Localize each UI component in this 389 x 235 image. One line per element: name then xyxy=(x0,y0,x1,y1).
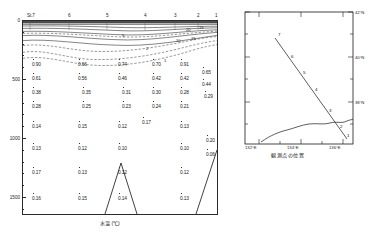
observation-point xyxy=(79,59,80,60)
observation-point xyxy=(181,193,182,194)
observation-point xyxy=(123,87,124,88)
observation-point xyxy=(143,117,144,118)
observation-value: 0.16 xyxy=(32,196,41,201)
observation-point xyxy=(119,143,120,144)
observation-point xyxy=(119,193,120,194)
observation-point xyxy=(119,121,120,122)
observation-point xyxy=(181,87,182,88)
observation-value: 0.15 xyxy=(78,124,87,129)
observation-value: 0.12 xyxy=(180,170,189,175)
isotherm-label: 2 xyxy=(146,46,148,51)
observation-point xyxy=(33,121,34,122)
observation-value: 0.17 xyxy=(32,170,41,175)
observation-value: 0.29 xyxy=(204,94,213,99)
observation-value: 0.25 xyxy=(82,104,91,109)
observation-value: 0.28 xyxy=(180,90,189,95)
observation-point xyxy=(181,59,182,60)
observation-point xyxy=(123,101,124,102)
observation-value: 0.10 xyxy=(180,146,189,151)
observation-point xyxy=(33,73,34,74)
observation-point xyxy=(83,101,84,102)
observation-point xyxy=(33,101,34,102)
isotherm-label: 10 xyxy=(176,38,181,43)
observation-value: 0.66 xyxy=(78,62,87,67)
map-station-number: 7 xyxy=(278,32,280,37)
observation-point xyxy=(207,149,208,150)
isotherm-label: 15 xyxy=(191,36,196,41)
x-axis-label: 水温 (℃) xyxy=(100,219,120,226)
observation-point xyxy=(33,59,34,60)
observation-value: 0.13 xyxy=(32,146,41,151)
observation-value: 0.12 xyxy=(78,146,87,151)
observation-value: 0.13 xyxy=(78,170,87,175)
observation-point xyxy=(203,79,204,80)
observation-point xyxy=(33,193,34,194)
map-station-number: 4 xyxy=(315,87,317,92)
figure-root: St.7654321 050010001500 xyxy=(0,0,389,235)
observation-value: 0.42 xyxy=(180,76,189,81)
observation-point xyxy=(33,87,34,88)
observation-point xyxy=(181,73,182,74)
observation-point xyxy=(181,101,182,102)
observation-point xyxy=(153,73,154,74)
observation-point xyxy=(79,121,80,122)
isotherm-label: 15 xyxy=(199,25,204,30)
observation-value: 0.14 xyxy=(118,196,127,201)
observation-point xyxy=(119,59,120,60)
map-station-number: 1 xyxy=(347,133,349,138)
map-station-number: 3 xyxy=(329,108,331,113)
longitude-label: 136°E xyxy=(329,145,340,150)
latitude-label: 40°N xyxy=(355,55,364,60)
observation-point xyxy=(119,73,120,74)
observation-value: 0.31 xyxy=(122,90,131,95)
isotherm-label: 5 xyxy=(122,33,124,38)
map-caption: 観測点の位置 xyxy=(271,151,305,158)
observation-point xyxy=(203,67,204,68)
observation-point xyxy=(153,101,154,102)
observation-value: 0.30 xyxy=(152,90,161,95)
observation-value: 0.91 xyxy=(180,62,189,67)
longitude-label: 132°E xyxy=(245,145,256,150)
observation-point xyxy=(79,193,80,194)
observation-value: 0.17 xyxy=(142,120,151,125)
observation-value: 0.74 xyxy=(118,62,127,67)
observation-value: 0.70 xyxy=(152,62,161,67)
observation-value: 0.13 xyxy=(180,124,189,129)
observation-value: 0.61 xyxy=(32,76,41,81)
observation-point xyxy=(79,167,80,168)
isotherm-label: 1 xyxy=(164,58,166,63)
latitude-label: 42°N xyxy=(355,10,364,15)
observation-value: 0.35 xyxy=(82,90,91,95)
observation-value: 0.12 xyxy=(118,170,127,175)
observation-value: 0.24 xyxy=(152,104,161,109)
observation-point xyxy=(33,143,34,144)
map-station-number: 2 xyxy=(340,124,342,129)
observation-value: 0.42 xyxy=(152,76,161,81)
latitude-label: 38°N xyxy=(355,100,364,105)
observation-point xyxy=(181,143,182,144)
observation-value: 0.90 xyxy=(32,62,41,67)
observation-value: 0.12 xyxy=(118,124,127,129)
observation-value: 0.20 xyxy=(206,138,215,143)
observation-point xyxy=(207,135,208,136)
observation-point xyxy=(181,121,182,122)
observation-value: 0.28 xyxy=(32,104,41,109)
observation-value: 0.65 xyxy=(202,70,211,75)
observation-value: 0.56 xyxy=(78,76,87,81)
observation-value: 0.15 xyxy=(78,196,87,201)
observation-point xyxy=(181,167,182,168)
map-frame-and-track xyxy=(231,8,386,158)
observation-point xyxy=(79,143,80,144)
observation-point xyxy=(153,87,154,88)
station-location-map: 42°N40°N38°N 132°E134°E136°E 7654321 観測点… xyxy=(231,8,386,173)
observation-value: 0.46 xyxy=(118,76,127,81)
observation-point xyxy=(119,167,120,168)
observation-value: 0.13 xyxy=(180,196,189,201)
observation-value: 0.06 xyxy=(206,152,215,157)
observation-point xyxy=(205,91,206,92)
isotherm-label: 20 xyxy=(186,27,191,32)
observation-point xyxy=(33,167,34,168)
observation-value: 0.21 xyxy=(180,104,189,109)
longitude-label: 134°E xyxy=(287,145,298,150)
map-station-number: 5 xyxy=(303,70,305,75)
